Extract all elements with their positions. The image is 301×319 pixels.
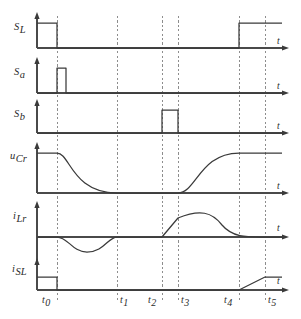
signal-row-Sa: Sa t <box>14 57 289 96</box>
signal-row-iLr: iLr t <box>13 201 289 262</box>
time-tick-labels: t0 t1 t2 t3 t4 t5 <box>42 294 276 308</box>
time-axis-arrow-iSL <box>282 287 289 292</box>
signal-row-Sb: Sb t <box>14 99 289 136</box>
vertical-axis-arrow-iSL <box>34 258 39 265</box>
signal-label-SL: SL <box>14 21 26 35</box>
timing-diagram-figure: SL t Sa t Sb t <box>0 0 301 319</box>
time-axis-label-iLr: t <box>277 223 280 233</box>
trace-SL <box>37 23 282 48</box>
time-axis-label-Sa: t <box>277 81 280 91</box>
signal-label-uCr: uCr <box>10 150 28 164</box>
time-axis-arrow-Sa <box>282 90 289 95</box>
time-axis-arrow-SL <box>282 45 289 50</box>
tick-label-t3: t3 <box>181 294 189 308</box>
dashed-gridlines <box>57 16 265 300</box>
signal-label-Sb: Sb <box>14 108 25 122</box>
time-axis-arrow-iLr <box>282 234 289 239</box>
tick-label-t5: t5 <box>268 294 276 308</box>
vertical-axis-arrow-iLr <box>34 201 39 208</box>
trace-iSL <box>37 277 282 290</box>
time-axis-label-Sb: t <box>277 121 280 131</box>
trace-iLr <box>37 213 282 252</box>
trace-Sb <box>37 110 282 133</box>
tick-label-t1: t1 <box>120 294 128 308</box>
time-axis-label-uCr: t <box>277 181 280 191</box>
vertical-axis-arrow-Sa <box>34 57 39 64</box>
vertical-axis-arrow-SL <box>34 12 39 19</box>
signal-label-iLr: iLr <box>13 210 27 224</box>
signal-row-SL: SL t <box>14 12 289 51</box>
trace-Sa <box>37 68 282 93</box>
tick-label-t0: t0 <box>42 294 50 308</box>
trace-uCr <box>37 153 282 193</box>
tick-label-t2: t2 <box>148 294 156 308</box>
time-axis-arrow-uCr <box>282 190 289 195</box>
signal-label-Sa: Sa <box>14 66 25 80</box>
waveform-canvas: SL t Sa t Sb t <box>0 0 301 319</box>
time-axis-label-iSL: t <box>277 276 280 286</box>
vertical-axis-arrow-uCr <box>34 142 39 149</box>
signal-label-iSL: iSL <box>12 263 27 277</box>
signal-row-uCr: uCr t <box>10 142 289 196</box>
tick-label-t4: t4 <box>224 294 232 308</box>
time-axis-label-SL: t <box>277 36 280 46</box>
vertical-axis-arrow-Sb <box>34 99 39 106</box>
time-axis-arrow-Sb <box>282 130 289 135</box>
signal-row-iSL: iSL t <box>12 258 289 293</box>
